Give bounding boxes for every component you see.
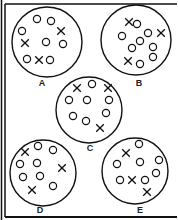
sample-boundary [102,138,168,204]
cross-particle-icon [21,148,29,156]
sample-label: B [136,78,143,88]
cross-particle-icon [122,149,130,157]
circle-particle-icon [49,146,56,153]
diagram: ABCDE [0,0,177,220]
circle-particle-icon [33,15,40,22]
circle-particle-icon [36,172,43,179]
sample-e: E [102,138,168,215]
circle-particle-icon [136,60,143,67]
circle-particle-icon [88,80,95,87]
circle-particle-icon [136,158,143,165]
circle-particle-icon [16,160,23,167]
sample-label: A [39,78,46,88]
circle-particle-icon [155,156,162,163]
cross-particle-icon [35,56,43,64]
sample-boundary [10,140,76,206]
cross-particle-icon [57,27,65,35]
sample-a: A [12,7,82,88]
circle-particle-icon [47,17,54,24]
circle-particle-icon [144,29,151,36]
cross-particle-icon [157,29,165,37]
circle-particle-icon [69,112,76,119]
frame [2,0,178,220]
cross-particle-icon [104,84,112,92]
circle-particle-icon [113,160,120,167]
cross-particle-icon [96,124,104,132]
sample-b: B [101,5,171,88]
circle-particle-icon [42,38,49,45]
circle-particle-icon [118,32,125,39]
circle-particle-icon [19,173,26,180]
cross-particle-icon [28,186,36,194]
circle-particle-icon [128,44,135,51]
circle-particle-icon [33,159,40,166]
circle-particle-icon [34,142,41,149]
circle-particle-icon [133,20,140,27]
circle-particle-icon [82,117,89,124]
cross-particle-icon [21,39,29,47]
cross-particle-icon [58,164,66,172]
sample-c: C [56,77,122,153]
circle-particle-icon [46,56,53,63]
circle-particle-icon [65,96,72,103]
circle-particle-icon [102,109,109,116]
sample-boundary [12,7,82,77]
cross-particle-icon [125,18,133,26]
circle-particle-icon [149,53,156,60]
circle-particle-icon [105,96,112,103]
sample-d: D [10,140,76,215]
circle-particle-icon [116,176,123,183]
circle-particle-icon [59,40,66,47]
circle-particle-icon [152,169,159,176]
circle-particle-icon [141,176,148,183]
cross-particle-icon [73,84,81,92]
circle-particle-icon [18,27,25,34]
cross-particle-icon [128,176,136,184]
circle-particle-icon [23,55,30,62]
sample-label: D [37,205,44,215]
cross-particle-icon [124,57,132,65]
cross-particle-icon [143,188,151,196]
circle-particle-icon [49,182,56,189]
sample-label: E [137,205,143,215]
circle-particle-icon [136,37,143,44]
circle-particle-icon [149,43,156,50]
sample-label: C [87,143,94,153]
circle-particle-icon [83,96,90,103]
circle-particle-icon [135,140,142,147]
